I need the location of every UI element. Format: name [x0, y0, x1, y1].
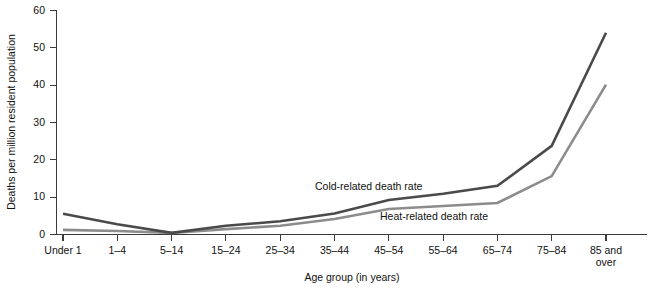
x-axis-tick-label: 85 andover — [590, 244, 622, 268]
annotation-cold-related-death-rate: Cold-related death rate — [315, 180, 423, 192]
x-axis-tick-label: 1–4 — [109, 244, 127, 256]
y-axis-tick-label: 0 — [39, 228, 45, 240]
y-axis-tick-label: 50 — [33, 41, 45, 53]
y-axis-ticks: 0102030405060 — [33, 4, 56, 240]
x-axis-tick-label: 45–54 — [374, 244, 403, 256]
y-axis-tick-label: 30 — [33, 116, 45, 128]
annotation-heat-related-death-rate: Heat-related death rate — [380, 210, 488, 222]
x-axis-tick-label: 75–84 — [537, 244, 566, 256]
x-axis-tick-label: Under 1 — [44, 244, 82, 256]
x-axis-ticks — [63, 235, 606, 242]
x-axis-tick-label: 25–34 — [266, 244, 295, 256]
y-axis-tick-label: 40 — [33, 78, 45, 90]
series-line-cold-related — [63, 33, 606, 233]
series-line-heat-related — [63, 85, 606, 233]
y-axis-tick-label: 10 — [33, 190, 45, 202]
x-axis-tick-labels: Under 11–45–1415–2425–3435–4445–5455–646… — [44, 244, 622, 268]
x-axis-title: Age group (in years) — [304, 271, 399, 283]
line-chart: Deaths per million resident population 0… — [0, 0, 653, 291]
x-axis-tick-label: 55–64 — [428, 244, 457, 256]
y-axis-tick-label: 60 — [33, 4, 45, 16]
x-axis-tick-label: 15–24 — [211, 244, 240, 256]
y-axis-tick-label: 20 — [33, 153, 45, 165]
chart-container: Deaths per million resident population 0… — [0, 0, 653, 291]
x-axis-tick-label: 65–74 — [483, 244, 512, 256]
x-axis-tick-label: 35–44 — [320, 244, 349, 256]
y-axis-title: Deaths per million resident population — [5, 34, 17, 210]
x-axis-tick-label: 5–14 — [160, 244, 184, 256]
